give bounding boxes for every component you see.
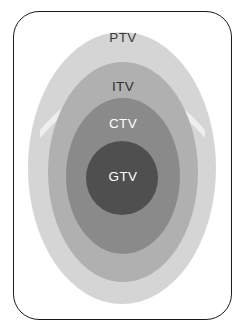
itv-label: ITV — [0, 80, 246, 94]
target-volume-diagram — [0, 0, 246, 331]
figure-canvas: PTV ITV CTV GTV — [0, 0, 246, 331]
ptv-label: PTV — [0, 31, 246, 45]
ctv-label: CTV — [0, 117, 246, 131]
gtv-label: GTV — [0, 170, 246, 184]
